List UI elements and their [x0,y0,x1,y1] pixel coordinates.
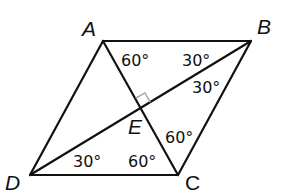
angle-label-ECD: 60° [128,152,156,171]
angle-label-ECB: 60° [165,128,193,147]
vertex-label-A: A [80,17,96,40]
angle-label-BAE: 60° [121,51,149,70]
vertex-label-E: E [128,115,143,138]
rhombus-diagram: A B C D E 60° 30° 30° 60° 30° 60° [0,0,284,194]
vertex-label-D: D [5,171,20,194]
vertex-label-B: B [257,15,271,38]
vertex-label-C: C [185,171,200,194]
angle-label-ABE: 30° [182,51,210,70]
angle-label-EBC: 30° [192,78,220,97]
angle-label-EDC: 30° [73,152,101,171]
